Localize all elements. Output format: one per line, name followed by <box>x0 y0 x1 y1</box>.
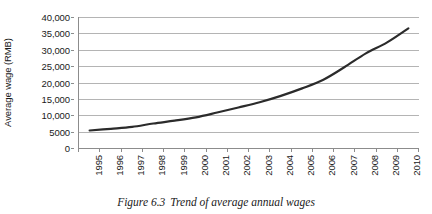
y-axis-tick-mark <box>71 99 74 100</box>
x-axis-tick-label: 1995 <box>93 155 104 176</box>
x-axis-tick-label: 2008 <box>369 155 380 176</box>
y-axis-tick-label: 5000 <box>14 126 70 137</box>
x-axis-tick-label: 2004 <box>284 155 295 176</box>
y-axis-tick-label: 0 <box>14 143 70 154</box>
figure-container: Average wage (RMB) 0500010,00015,00020,0… <box>0 0 432 214</box>
y-axis-tick-label: 30,000 <box>14 44 70 55</box>
y-axis-tick-label: 15,000 <box>14 93 70 104</box>
wage-trend-line <box>79 17 419 148</box>
y-axis-tick-mark <box>71 132 74 133</box>
x-axis-tick-label: 2003 <box>263 155 274 176</box>
y-axis-tick-mark <box>71 66 74 67</box>
x-axis-tick-mark <box>418 148 419 152</box>
y-axis-tick-mark <box>71 50 74 51</box>
x-axis-tick-mark <box>291 148 292 152</box>
x-axis-tick-labels: 1995199619971998199920002001200220032004… <box>78 148 419 194</box>
y-axis-tick-label: 20,000 <box>14 77 70 88</box>
x-axis-tick-label: 1998 <box>156 155 167 176</box>
x-axis-tick-mark <box>121 148 122 152</box>
y-axis-tick-label: 40,000 <box>14 12 70 23</box>
x-axis-tick-label: 2010 <box>411 155 422 176</box>
x-axis-tick-label: 2005 <box>305 155 316 176</box>
x-axis-tick-mark <box>184 148 185 152</box>
x-axis-tick-mark <box>312 148 313 152</box>
x-axis-tick-label: 2000 <box>199 155 210 176</box>
y-axis-tick-mark <box>71 17 74 18</box>
y-axis-tick-mark <box>71 33 74 34</box>
plot-area <box>78 17 419 149</box>
y-axis-tick-label: 35,000 <box>14 28 70 39</box>
figure-caption-text: Trend of average annual wages <box>170 196 315 208</box>
x-axis-tick-mark <box>227 148 228 152</box>
x-axis-tick-mark <box>248 148 249 152</box>
x-axis-tick-label: 1997 <box>135 155 146 176</box>
x-axis-tick-mark <box>269 148 270 152</box>
x-axis-tick-mark <box>78 148 79 152</box>
y-axis-title: Average wage (RMB) <box>0 17 14 148</box>
y-axis-tick-label: 25,000 <box>14 61 70 72</box>
y-axis-tick-mark <box>71 115 74 116</box>
x-axis-tick-label: 2006 <box>326 155 337 176</box>
x-axis-tick-mark <box>142 148 143 152</box>
x-axis-tick-mark <box>163 148 164 152</box>
x-axis-tick-mark <box>99 148 100 152</box>
x-axis-tick-label: 2001 <box>220 155 231 176</box>
x-axis-tick-mark <box>333 148 334 152</box>
x-axis-tick-label: 2009 <box>390 155 401 176</box>
figure-caption-number: Figure 6.3 <box>117 196 165 208</box>
figure-caption: Figure 6.3Trend of average annual wages <box>0 196 432 208</box>
y-axis-tick-mark <box>71 83 74 84</box>
x-axis-tick-label: 2007 <box>348 155 359 176</box>
x-axis-tick-mark <box>376 148 377 152</box>
x-axis-tick-mark <box>206 148 207 152</box>
x-axis-tick-label: 1999 <box>178 155 189 176</box>
x-axis-tick-mark <box>397 148 398 152</box>
y-axis-tick-labels: 0500010,00015,00020,00025,00030,00035,00… <box>14 17 74 148</box>
x-axis-tick-mark <box>354 148 355 152</box>
x-axis-tick-label: 1996 <box>114 155 125 176</box>
series-path <box>90 28 409 130</box>
x-axis-tick-label: 2002 <box>241 155 252 176</box>
y-axis-tick-label: 10,000 <box>14 110 70 121</box>
y-axis-tick-mark <box>71 148 74 149</box>
y-axis-title-label: Average wage (RMB) <box>2 38 13 127</box>
